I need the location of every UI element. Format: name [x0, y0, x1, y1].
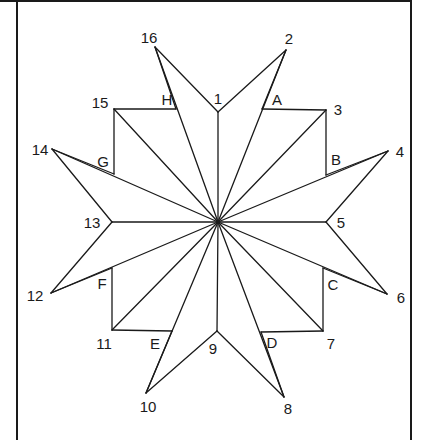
label-e: E: [150, 335, 160, 352]
label-7: 7: [327, 335, 335, 352]
label-g: G: [97, 153, 109, 170]
label-13: 13: [84, 214, 101, 231]
label-c: C: [328, 276, 339, 293]
spoke-to-15: [114, 109, 218, 222]
label-9: 9: [209, 340, 217, 357]
label-5: 5: [337, 214, 345, 231]
edge-7-D: [261, 331, 323, 332]
label-h: H: [162, 91, 173, 108]
spoke-to-3: [218, 110, 326, 222]
label-a: A: [272, 91, 282, 108]
spoke-to-4: [218, 151, 388, 222]
label-8: 8: [284, 400, 292, 417]
label-14: 14: [32, 141, 49, 158]
edge-E-11: [112, 330, 172, 331]
spoke-to-9: [217, 222, 218, 331]
label-4: 4: [396, 143, 404, 160]
spoke-to-14: [52, 149, 218, 222]
label-2: 2: [285, 30, 293, 47]
label-6: 6: [397, 289, 405, 306]
label-10: 10: [140, 398, 157, 415]
label-d: D: [267, 334, 278, 351]
spoke-to-7: [218, 222, 323, 331]
star-diagram: 12345678910111213141516ABCDEFGH: [0, 0, 427, 440]
label-b: B: [331, 151, 341, 168]
label-15: 15: [92, 94, 109, 111]
center-point: [216, 220, 220, 224]
spoke-to-11: [112, 222, 218, 330]
label-3: 3: [334, 101, 342, 118]
label-12: 12: [27, 287, 44, 304]
page-frame: [0, 0, 412, 440]
label-16: 16: [141, 29, 158, 46]
label-11: 11: [96, 335, 112, 352]
label-1: 1: [214, 90, 222, 107]
edge-A-3: [262, 109, 326, 110]
label-f: F: [97, 275, 106, 292]
